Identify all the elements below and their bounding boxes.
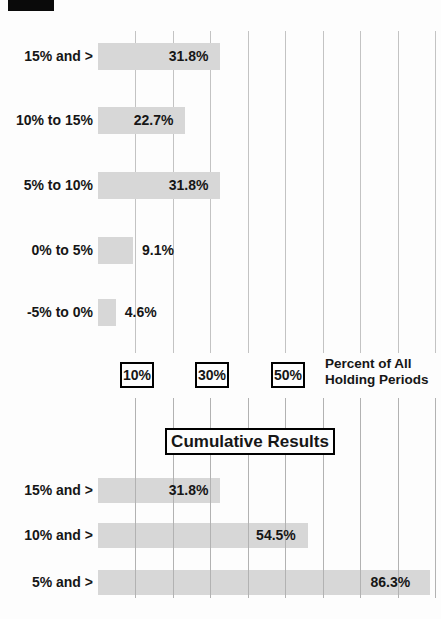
gridline [360,31,361,353]
value-label: 54.5% [98,523,308,548]
scan-artifact-mark [8,0,54,11]
value-label: 9.1% [142,237,174,264]
cumulative-results-title: Cumulative Results [165,428,335,455]
value-label: 22.7% [98,107,185,134]
category-label: -5% to 0% [0,299,93,326]
bar: 86.3% [98,570,430,595]
x-tick-box-10: 10% [120,362,154,388]
bar: 31.8% [98,478,220,503]
bar: 4.6% [98,299,116,326]
x-axis-caption: Percent of All Holding Periods [325,356,429,387]
gridline [285,31,286,353]
category-label: 5% to 10% [0,172,93,199]
category-label: 15% and > [0,478,93,503]
gridline [435,31,436,353]
gridline [248,31,249,353]
bar: 9.1% [98,237,133,264]
bar: 31.8% [98,172,220,199]
x-axis-caption-line2: Holding Periods [325,372,429,388]
value-label: 31.8% [98,172,220,199]
bar: 54.5% [98,523,308,548]
category-label: 0% to 5% [0,237,93,264]
holding-period-returns-figure: 15% and > 31.8% 10% to 15% 22.7% 5% to 1… [0,0,441,619]
value-label: 31.8% [98,43,220,70]
value-label: 31.8% [98,478,220,503]
bar: 22.7% [98,107,185,134]
bar: 31.8% [98,43,220,70]
x-axis-caption-line1: Percent of All [325,356,429,372]
gridline [435,398,436,598]
category-label: 5% and > [0,570,93,595]
category-label: 15% and > [0,43,93,70]
category-label: 10% and > [0,523,93,548]
gridline [398,31,399,353]
gridline [398,398,399,598]
value-label: 4.6% [125,299,157,326]
x-tick-box-30: 30% [195,362,229,388]
gridline [360,398,361,598]
bar-row: 5% and > 86.3% [0,570,441,595]
value-label: 86.3% [98,570,430,595]
category-label: 10% to 15% [0,107,93,134]
gridline [323,31,324,353]
x-tick-box-50: 50% [271,362,305,388]
